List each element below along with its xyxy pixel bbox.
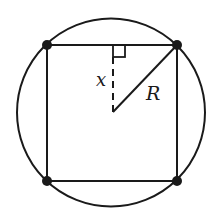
vertex-dot-bottom-right	[172, 176, 182, 186]
right-angle-marker	[113, 45, 125, 57]
radius-R-line	[113, 45, 177, 112]
vertex-dot-top-right	[172, 40, 182, 50]
inscribed-square-diagram: x R	[0, 0, 211, 220]
label-R: R	[145, 82, 160, 104]
label-x: x	[96, 69, 106, 90]
vertex-dot-bottom-left	[42, 176, 52, 186]
vertex-dot-top-left	[42, 40, 52, 50]
